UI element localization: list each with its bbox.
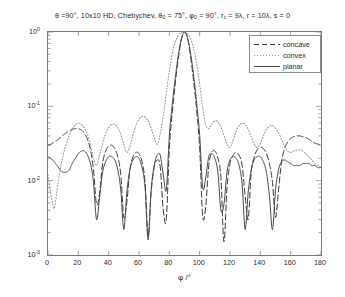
x-tick-label-120: 120 xyxy=(223,258,235,267)
legend-swatch-concave xyxy=(254,44,280,45)
title-r-value: r = 10λ, xyxy=(247,11,272,20)
title-theta0-subscript: 0 xyxy=(162,14,165,20)
title-rc-value: = 9λ, xyxy=(228,11,244,20)
y-tick-label-1: 10-1 xyxy=(8,101,40,110)
title-taper: Chebychev, xyxy=(118,11,156,20)
title-s-value: s = 0 xyxy=(274,11,290,20)
legend-item-convex[interactable]: convex xyxy=(254,50,318,61)
y-tick-exponent: -3 xyxy=(35,249,40,255)
title-phi0-value: = 90°, xyxy=(199,11,219,20)
x-tick-label-140: 140 xyxy=(253,258,265,267)
legend-swatch-convex xyxy=(254,55,280,56)
title-theta0-value: = 75°, xyxy=(168,11,188,20)
title-theta: θ =90°, xyxy=(55,11,79,20)
y-tick-label-2: 10-2 xyxy=(8,175,40,184)
y-tick-base: 10 xyxy=(29,27,37,36)
x-tick-label-40: 40 xyxy=(104,258,112,267)
legend-item-concave[interactable]: concave xyxy=(254,39,318,50)
y-tick-label-3: 10-3 xyxy=(8,249,40,258)
x-tick-label-160: 160 xyxy=(284,258,296,267)
title-rc-subscript: c xyxy=(223,14,226,20)
x-axis-title: φ /° xyxy=(47,273,322,282)
legend-label-planar: planar xyxy=(283,61,303,72)
legend-label-convex: convex xyxy=(283,50,306,61)
legend-item-planar[interactable]: planar xyxy=(254,61,318,72)
legend: concaveconvexplanar xyxy=(249,35,321,73)
x-tick-label-180: 180 xyxy=(314,258,326,267)
chart-title: θ =90°, 10x10 HD, Chebychev, θ0 = 75°, φ… xyxy=(0,11,345,20)
legend-swatch-planar xyxy=(254,66,280,67)
x-tick-label-60: 60 xyxy=(134,258,142,267)
x-tick-label-0: 0 xyxy=(45,258,49,267)
title-phi0-subscript: 0 xyxy=(194,14,197,20)
y-tick-exponent: -2 xyxy=(35,175,40,181)
x-tick-label-80: 80 xyxy=(164,258,172,267)
y-tick-exponent: -1 xyxy=(35,101,40,107)
legend-label-concave: concave xyxy=(283,39,310,50)
title-array: 10x10 HD, xyxy=(81,11,116,20)
x-tick-label-100: 100 xyxy=(193,258,205,267)
x-tick-label-20: 20 xyxy=(73,258,81,267)
y-tick-label-0: 100 xyxy=(8,26,40,35)
y-tick-exponent: 0 xyxy=(37,26,40,32)
chart-figure: θ =90°, 10x10 HD, Chebychev, θ0 = 75°, φ… xyxy=(0,0,345,297)
